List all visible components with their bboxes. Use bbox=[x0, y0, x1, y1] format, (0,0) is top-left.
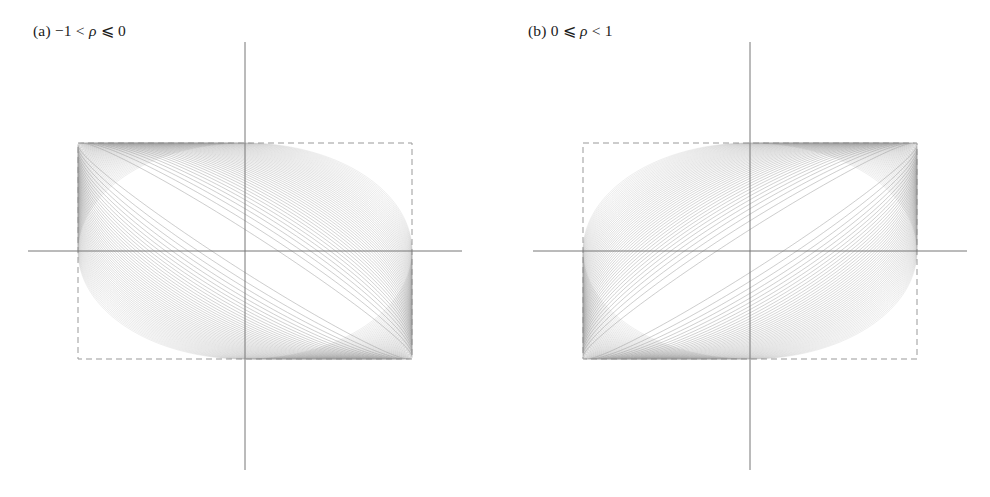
panel-b: (b) 0 ⩽ ρ < 1 bbox=[495, 0, 990, 497]
figure-container: (a) −1 < ρ ⩽ 0 (b) 0 ⩽ ρ < 1 bbox=[0, 0, 990, 497]
panel-a: (a) −1 < ρ ⩽ 0 bbox=[0, 0, 495, 497]
panel-a-plot bbox=[0, 0, 495, 497]
panel-b-plot bbox=[495, 0, 990, 497]
